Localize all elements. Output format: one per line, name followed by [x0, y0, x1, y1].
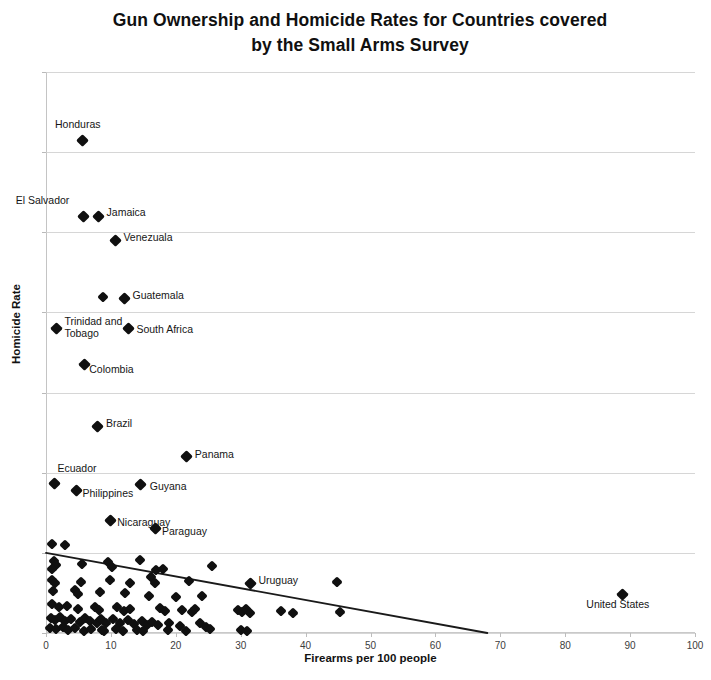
point-label-el-salvador: El Salvador: [16, 194, 70, 206]
point-label-colombia: Colombia: [89, 363, 133, 375]
x-tick-label-90: 90: [615, 640, 645, 651]
point-label-brazil: Brazil: [106, 417, 132, 429]
point-label-united-states: United States: [586, 598, 649, 610]
x-tick-mark-70: [500, 633, 501, 637]
chart-title-line-1: Gun Ownership and Homicide Rates for Cou…: [40, 8, 680, 33]
chart-title-line-2: by the Small Arms Survey: [40, 33, 680, 58]
point-label-venezuala: Venezuala: [123, 231, 172, 243]
x-tick-label-10: 10: [96, 640, 126, 651]
chart-title: Gun Ownership and Homicide Rates for Cou…: [40, 8, 680, 58]
x-tick-mark-50: [371, 633, 372, 637]
x-tick-label-80: 80: [550, 640, 580, 651]
x-tick-mark-20: [176, 633, 177, 637]
y-axis-title: Homicide Rate: [10, 264, 22, 384]
x-tick-label-30: 30: [226, 640, 256, 651]
x-tick-mark-10: [111, 633, 112, 637]
point-label-ecuador: Ecuador: [57, 462, 96, 474]
point-label-paraguay: Paraguay: [162, 525, 207, 537]
plot-area: 010203040506070 0102030405060708090100 H…: [46, 72, 695, 633]
x-axis-title: Firearms per 100 people: [46, 652, 695, 664]
x-tick-label-50: 50: [356, 640, 386, 651]
x-tick-label-60: 60: [420, 640, 450, 651]
x-tick-mark-0: [46, 633, 47, 637]
point-label-uruguay: Uruguay: [258, 574, 298, 586]
point-label-jamaica: Jamaica: [107, 206, 146, 218]
x-tick-label-20: 20: [161, 640, 191, 651]
point-label-trinidad-and-tobago: Trinidad and Tobago: [64, 315, 138, 339]
x-tick-mark-90: [630, 633, 631, 637]
x-tick-mark-80: [565, 633, 566, 637]
point-label-guatemala: Guatemala: [133, 289, 184, 301]
scatter-chart-figure: Gun Ownership and Homicide Rates for Cou…: [0, 0, 711, 680]
point-label-guyana: Guyana: [150, 480, 187, 492]
x-tick-mark-40: [306, 633, 307, 637]
x-tick-label-100: 100: [680, 640, 710, 651]
point-label-panama: Panama: [195, 448, 234, 460]
point-label-honduras: Honduras: [55, 118, 101, 130]
x-tick-mark-100: [695, 633, 696, 637]
point-label-south-africa: South Africa: [136, 323, 193, 335]
trend-line: [46, 72, 695, 633]
x-tick-label-0: 0: [31, 640, 61, 651]
x-tick-label-70: 70: [485, 640, 515, 651]
x-tick-label-40: 40: [291, 640, 321, 651]
point-label-philippines: Philippines: [83, 487, 134, 499]
x-tick-mark-60: [435, 633, 436, 637]
